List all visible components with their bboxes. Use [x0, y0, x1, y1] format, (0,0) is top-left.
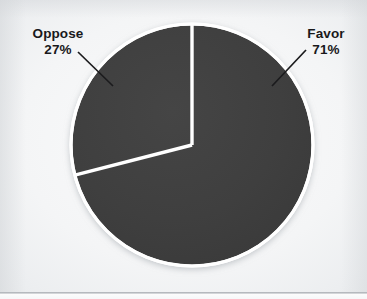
pie-chart-figure: Oppose 27% Favor 71%: [0, 0, 367, 299]
slice-label-favor-name: Favor: [296, 26, 356, 42]
slice-label-favor-value: 71%: [296, 42, 356, 58]
footer-divider-rule: [0, 292, 367, 294]
slice-label-oppose-value: 27%: [20, 42, 96, 58]
slice-label-oppose: Oppose 27%: [20, 26, 96, 58]
slice-label-favor: Favor 71%: [296, 26, 356, 58]
slice-label-oppose-name: Oppose: [20, 26, 96, 42]
